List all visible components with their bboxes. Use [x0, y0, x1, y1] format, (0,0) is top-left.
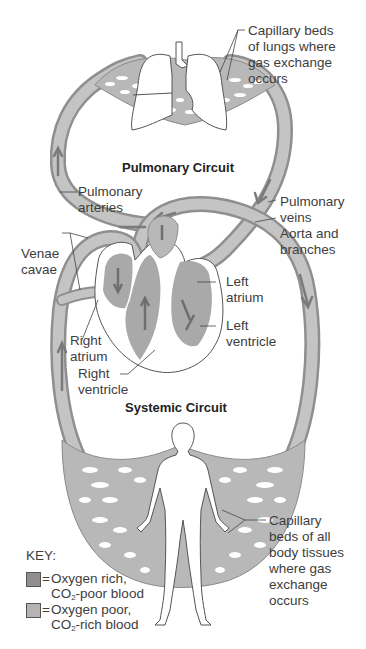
label-capillary-body: Capillary beds of all body tissues where… [269, 513, 344, 609]
label-left-ventricle: Left ventricle [226, 318, 276, 350]
key-item-oxygen-rich: = Oxygen rich, CO2-poor blood [26, 571, 144, 605]
label-capillary-lungs: Capillary beds of lungs where gas exchan… [248, 23, 336, 87]
label-pulmonary-arteries: Pulmonary arteries [78, 184, 143, 216]
key-title: KEY: [26, 548, 56, 563]
pulmonary-circuit-title: Pulmonary Circuit [122, 160, 234, 175]
systemic-circuit-title: Systemic Circuit [125, 400, 227, 415]
label-left-atrium: Left atrium [226, 274, 264, 306]
label-right-ventricle: Right ventricle [78, 366, 128, 398]
key-item-oxygen-poor: = Oxygen poor, CO2-rich blood [26, 602, 139, 636]
swatch-oxygen-rich [26, 572, 41, 587]
label-venae-cavae: Venae cavae [21, 246, 59, 278]
swatch-oxygen-poor [26, 603, 41, 618]
label-aorta: Aorta and branches [280, 226, 339, 258]
key-equals: = [42, 571, 50, 586]
label-pulmonary-veins: Pulmonary veins [280, 194, 345, 226]
key-equals: = [42, 602, 50, 617]
key-line1: Oxygen poor, [51, 602, 139, 617]
key-line1: Oxygen rich, [51, 571, 144, 586]
label-right-atrium: Right atrium [70, 333, 108, 365]
key-line2: CO2-rich blood [51, 617, 139, 636]
